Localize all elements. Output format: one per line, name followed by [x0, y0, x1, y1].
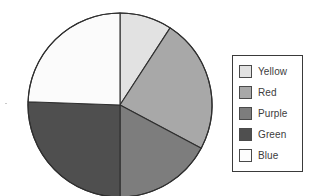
legend-item-purple[interactable]: Purple [233, 103, 302, 124]
legend-label: Blue [258, 150, 278, 161]
legend-item-green[interactable]: Green [233, 124, 302, 145]
pie-slice-blue[interactable] [28, 13, 120, 105]
legend-swatch-icon [239, 149, 252, 162]
legend-swatch-icon [239, 128, 252, 141]
legend-label: Green [258, 129, 286, 140]
pie-slice-group [28, 13, 212, 196]
legend-swatch-icon [239, 65, 252, 78]
legend-label: Purple [258, 108, 288, 119]
legend-label: Yellow [258, 66, 287, 77]
chart-legend: YellowRedPurpleGreenBlue [232, 55, 303, 172]
pie-slice-green[interactable] [28, 102, 120, 196]
legend-item-yellow[interactable]: Yellow [233, 61, 302, 82]
pie-chart-figure: YellowRedPurpleGreenBlue [0, 0, 310, 196]
legend-item-red[interactable]: Red [233, 82, 302, 103]
legend-swatch-icon [239, 107, 252, 120]
scan-artifact [5, 103, 7, 104]
legend-swatch-icon [239, 86, 252, 99]
pie-chart [0, 0, 225, 196]
legend-item-blue[interactable]: Blue [233, 145, 302, 166]
legend-label: Red [258, 87, 277, 98]
